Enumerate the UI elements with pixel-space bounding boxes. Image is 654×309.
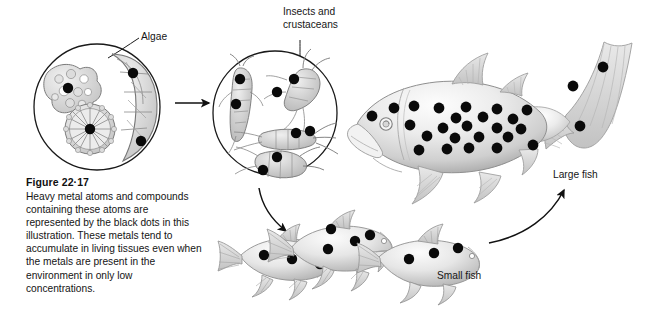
small-fish-group [218, 210, 480, 305]
large-fish-eye [380, 118, 392, 130]
label-algae: Algae [141, 31, 167, 44]
label-small-fish: Small fish [437, 270, 481, 283]
figure-bioaccumulation: Algae Insects and crustaceans Large fish… [0, 0, 654, 309]
algae-group [34, 38, 160, 170]
label-large-fish: Large fish [553, 169, 598, 182]
figure-caption-block: Figure 22·17 Heavy metal atoms and compo… [26, 176, 202, 295]
insect-group [213, 40, 338, 179]
arrow-insects-to-small-fish [259, 188, 286, 231]
arrow-small-fish-to-large-fish [489, 190, 564, 243]
figure-number: Figure 22·17 [26, 176, 202, 189]
figure-caption-text: Heavy metal atoms and compounds containi… [26, 190, 202, 295]
label-insects-and-crustaceans: Insects and crustaceans [283, 6, 338, 31]
